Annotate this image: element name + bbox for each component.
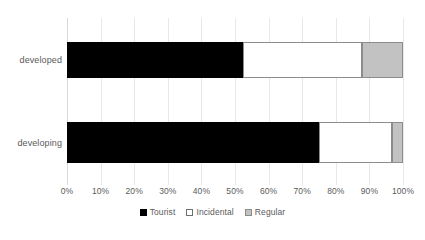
category-label-developing: developing [0,138,62,148]
bar-row [67,42,403,78]
bar-segment-incidental[interactable] [243,42,362,78]
bar-segment-incidental[interactable] [319,122,392,163]
legend-item-incidental[interactable]: Incidental [186,207,233,217]
legend-swatch-tourist-icon [140,209,147,216]
x-axis-tick-label: 90% [361,186,378,196]
bar-segment-regular[interactable] [362,42,403,78]
x-axis-tick-label: 40% [193,186,210,196]
x-axis-tick-label: 10% [92,186,109,196]
legend-swatch-regular-icon [245,209,252,216]
legend-label: Regular [255,207,285,217]
x-axis-tick-label: 60% [260,186,277,196]
bar-segment-regular[interactable] [392,122,403,163]
stacked-bar-chart: developed developing 0%10%20%30%40%50%60… [0,0,425,240]
bar-segment-tourist[interactable] [67,42,243,78]
x-axis: 0%10%20%30%40%50%60%70%80%90%100% [67,186,403,200]
bar-row [67,122,403,163]
legend-item-regular[interactable]: Regular [245,207,285,217]
bar-segment-tourist[interactable] [67,122,319,163]
x-axis-tick-label: 70% [294,186,311,196]
legend-item-tourist[interactable]: Tourist [140,207,176,217]
plot-area [67,18,403,185]
x-axis-tick-label: 50% [226,186,243,196]
legend-label: Incidental [196,207,233,217]
x-axis-tick-label: 20% [126,186,143,196]
x-axis-tick-label: 0% [61,186,74,196]
x-axis-tick-label: 30% [159,186,176,196]
category-label-developed: developed [0,55,62,65]
legend-label: Tourist [150,207,176,217]
legend: TouristIncidentalRegular [0,207,425,217]
x-axis-tick-label: 100% [392,186,414,196]
x-axis-tick-label: 80% [327,186,344,196]
gridline-100% [403,18,404,185]
legend-swatch-incidental-icon [186,209,193,216]
